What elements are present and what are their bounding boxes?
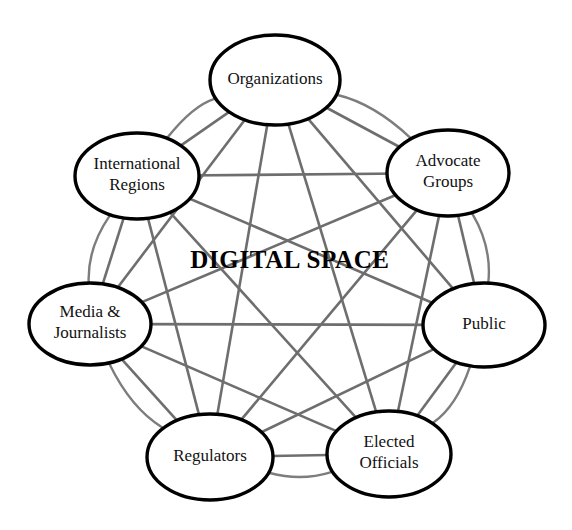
node-elected-officials[interactable]: ElectedOfficials bbox=[327, 411, 451, 497]
link-regulators-to-international-regions bbox=[144, 203, 203, 431]
node-label-regulators: Regulators bbox=[173, 446, 247, 465]
ring-arc-advocate-groups-to-public bbox=[472, 214, 489, 282]
node-label-advocate-groups: Groups bbox=[423, 172, 473, 191]
link-advocate-groups-to-international-regions bbox=[183, 173, 403, 175]
node-label-media-journalists: Journalists bbox=[54, 323, 127, 342]
node-advocate-groups[interactable]: AdvocateGroups bbox=[387, 130, 509, 216]
node-public[interactable]: Public bbox=[423, 283, 545, 367]
node-regulators[interactable]: Regulators bbox=[147, 414, 273, 500]
node-label-public: Public bbox=[462, 314, 506, 333]
link-public-to-media-journalists bbox=[135, 324, 439, 325]
node-label-international-regions: Regions bbox=[109, 175, 165, 194]
node-media-journalists[interactable]: Media &Journalists bbox=[29, 283, 151, 365]
node-organizations[interactable]: Organizations bbox=[210, 35, 340, 125]
node-label-advocate-groups: Advocate bbox=[415, 151, 480, 170]
node-label-elected-officials: Officials bbox=[359, 453, 418, 472]
ring-arc-international-regions-to-organizations bbox=[168, 99, 215, 138]
node-label-international-regions: International bbox=[94, 154, 181, 173]
diagram-root: OrganizationsAdvocateGroupsPublicElected… bbox=[0, 0, 572, 530]
ring-arc-elected-officials-to-regulators bbox=[270, 472, 331, 477]
center-label: DIGITAL SPACE bbox=[190, 246, 389, 273]
node-label-elected-officials: Elected bbox=[364, 432, 415, 451]
network-diagram: OrganizationsAdvocateGroupsPublicElected… bbox=[0, 0, 572, 530]
node-label-media-journalists: Media & bbox=[60, 302, 121, 321]
node-international-regions[interactable]: InternationalRegions bbox=[75, 133, 199, 219]
ring-arc-public-to-elected-officials bbox=[433, 367, 469, 422]
node-label-organizations: Organizations bbox=[227, 69, 322, 88]
ring-arc-organizations-to-advocate-groups bbox=[338, 95, 411, 138]
